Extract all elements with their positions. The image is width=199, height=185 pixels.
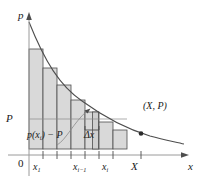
delta-x-annotation: Δx [84,130,94,140]
bar-4 [71,100,85,149]
tick-label-x1: x1 [33,162,41,173]
price-level-label: P [6,113,13,124]
x-axis-arrowhead-icon [181,152,189,158]
point-marker-XP [139,131,144,136]
tick-label-x-i-minus-1-sub: i−1 [77,166,86,173]
tick-label-x-i: xi [102,162,108,173]
bar-7 [113,130,127,149]
point-label-XP: (X, P) [143,101,167,111]
y-axis-arrowhead-icon [26,12,32,20]
tick-label-x1-sub: 1 [37,166,40,173]
surplus-annotation-fn: p(x [27,129,40,140]
bar-6 [99,122,113,149]
y-axis-label: p [18,10,24,21]
surplus-annotation: p(xi) − P [27,130,63,141]
figure-canvas [0,0,199,185]
origin-label: 0 [18,158,24,169]
surplus-annotation-rest: ) − P [42,129,63,140]
tick-label-x-i-minus-1: xi−1 [73,162,86,173]
tick-label-X: X [131,161,138,172]
tick-label-x-i-sub: i [106,166,108,173]
x-axis-label: x [188,161,193,172]
riemann-sum-figure: p x P 0 x1 xi−1 xi X p(xi) − P Δx (X, P) [0,0,199,185]
